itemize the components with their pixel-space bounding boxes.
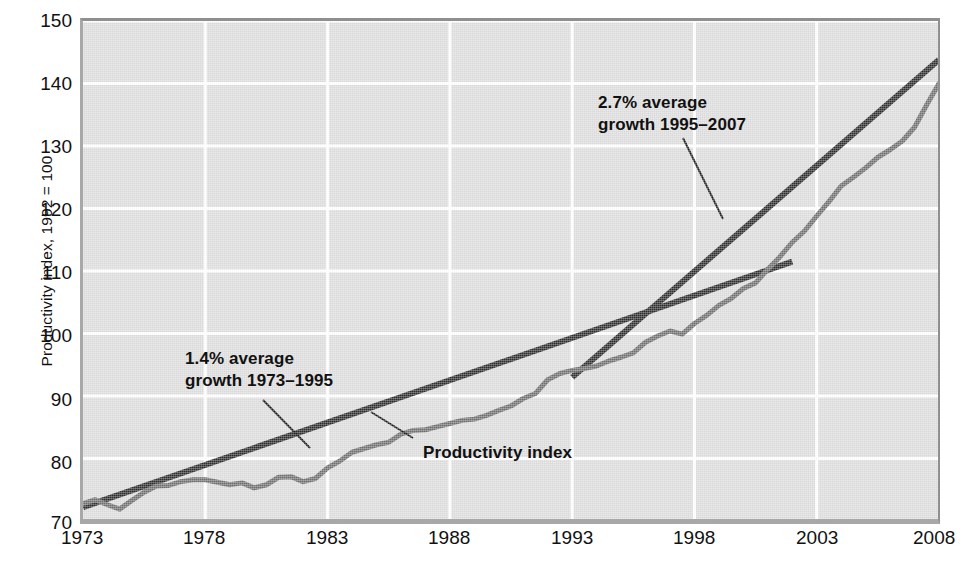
x-tick-1983: 1983 [306, 528, 348, 547]
y-tick-80: 80 [20, 453, 72, 472]
x-tick-1973: 1973 [61, 528, 103, 547]
annotation-leader-lines [263, 138, 723, 448]
annotation-growth-2-7-line1: 2.7% average [598, 92, 746, 114]
x-tick-1993: 1993 [551, 528, 593, 547]
x-tick-1998: 1998 [673, 528, 715, 547]
annotation-series-label: Productivity index [423, 442, 572, 464]
y-tick-150: 150 [20, 11, 72, 30]
annotation-growth-1-4: 1.4% average growth 1973–1995 [185, 348, 333, 392]
x-tick-1988: 1988 [428, 528, 470, 547]
x-tick-2003: 2003 [796, 528, 838, 547]
annotation-growth-2-7: 2.7% average growth 1995–2007 [598, 92, 746, 136]
annotation-growth-2-7-line2: growth 1995–2007 [598, 114, 746, 136]
y-axis-tick-labels: 150 140 130 120 110 100 90 80 70 [16, 0, 72, 565]
annotation-growth-1-4-line2: growth 1973–1995 [185, 370, 333, 392]
y-tick-130: 130 [20, 137, 72, 156]
x-tick-2008: 2008 [913, 528, 955, 547]
y-tick-140: 140 [20, 74, 72, 93]
annotation-growth-1-4-line1: 1.4% average [185, 348, 333, 370]
annotation-series-label-text: Productivity index [423, 442, 572, 464]
y-tick-120: 120 [20, 200, 72, 219]
trend-lines [83, 60, 939, 508]
y-tick-110: 110 [20, 263, 72, 282]
chart-container: Productivity index, 1992 = 100 150 140 1… [0, 0, 960, 565]
y-tick-100: 100 [20, 326, 72, 345]
y-tick-90: 90 [20, 390, 72, 409]
x-tick-1978: 1978 [183, 528, 225, 547]
